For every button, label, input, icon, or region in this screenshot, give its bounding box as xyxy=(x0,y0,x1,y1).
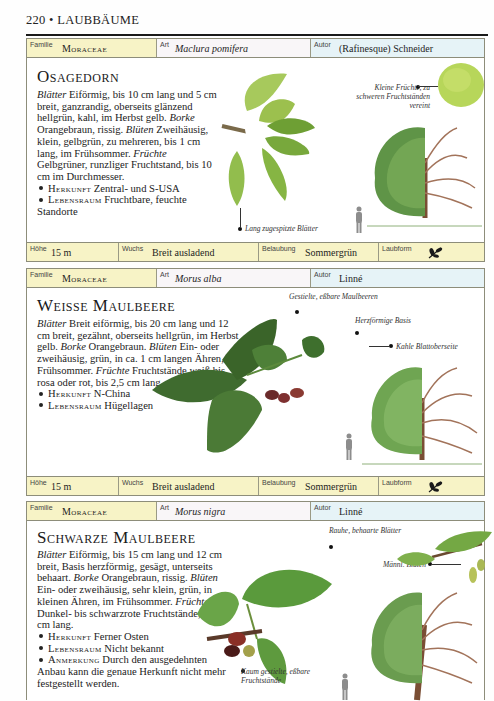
header-rule xyxy=(26,34,488,36)
species-cell: Art Morus alba xyxy=(157,269,311,287)
leaf-form-cell: Laubform xyxy=(379,243,484,261)
entry-header-bar: Familie Moraceae Art Morus alba Autor Li… xyxy=(26,268,485,288)
height-cell: Höhe 15 m xyxy=(27,477,119,495)
entry-schwarze-maulbeere: Familie Moraceae Art Morus nigra Autor L… xyxy=(26,501,485,700)
entry-title: Osagedorn xyxy=(37,67,119,87)
leaf-branch-illustration xyxy=(217,66,317,216)
species-cell: Art Morus nigra xyxy=(157,502,311,520)
foliage-cell: Belaubung Sommergrün xyxy=(259,477,379,495)
separator-dot: • xyxy=(49,13,54,27)
page-header: 220 • LAUBBÄUME xyxy=(26,13,139,28)
species-value: Morus nigra xyxy=(175,506,225,517)
family-label: Familie xyxy=(30,504,53,511)
human-scale-icon xyxy=(340,673,350,701)
leaf-sprig-icon xyxy=(427,480,443,493)
foliage-label: Belaubung xyxy=(262,479,295,486)
author-value: Linné xyxy=(339,273,362,284)
entry-header-bar: Familie Moraceae Art Morus nigra Autor L… xyxy=(26,501,485,521)
caption-fruit: Kaum gestielte, eßbare Fruchtstände xyxy=(241,667,311,685)
page-number: 220 xyxy=(26,13,46,27)
author-value: Linné xyxy=(339,506,362,517)
author-label: Autor xyxy=(314,41,331,48)
tree-illustration xyxy=(367,118,482,233)
entry-footer-bar: Höhe 15 m Wuchs Breit ausladend Belaubun… xyxy=(26,476,485,496)
leader-line xyxy=(369,346,389,347)
human-scale-icon xyxy=(344,433,354,461)
family-label: Familie xyxy=(30,41,53,48)
author-cell: Autor Linné xyxy=(311,269,484,287)
leaf-form-label: Laubform xyxy=(382,245,412,252)
family-label: Familie xyxy=(30,271,53,278)
entry-description: Blätter Eiförmig, bis 10 cm lang und 5 c… xyxy=(37,89,217,218)
tree-illustration xyxy=(362,585,482,700)
entry-footer-bar: Höhe 15 m Wuchs Breit ausladend Belaubun… xyxy=(26,242,485,262)
species-label: Art xyxy=(160,504,169,511)
caption-leaf-surface: Kahle Blattoberseite xyxy=(396,342,481,351)
entry-body: Schwarze Maulbeere Blätter Eiförmig, bis… xyxy=(26,521,485,700)
bullet-habitat: Lebensraum Fruchtbare, feuchte Standorte xyxy=(37,194,217,217)
leaf-sprig-icon xyxy=(427,246,443,259)
leader-line xyxy=(418,86,438,87)
species-label: Art xyxy=(160,271,169,278)
male-flower-branch-illustration xyxy=(397,529,492,589)
entry-body: Osagedorn Blätter Eiförmig, bis 10 cm la… xyxy=(26,58,485,242)
caption-fruit: Gestielte, eßbare Maulbeeren xyxy=(289,292,379,301)
caption-pin xyxy=(389,344,393,348)
caption-leaves: Lang zugespitzte Blätter xyxy=(245,224,325,233)
species-value: Maclura pomifera xyxy=(175,43,248,54)
caption-pin xyxy=(295,310,299,314)
growth-value: Breit ausladend xyxy=(152,481,214,492)
human-scale-icon xyxy=(354,206,364,234)
fruit-illustration xyxy=(437,62,485,108)
species-label: Art xyxy=(160,41,169,48)
family-cell: Familie Moraceae xyxy=(27,502,157,520)
height-label: Höhe xyxy=(30,479,47,486)
height-label: Höhe xyxy=(30,245,47,252)
leaf-form-cell: Laubform xyxy=(379,477,484,495)
author-value: (Rafinesque) Schneider xyxy=(339,43,433,54)
entry-header-bar: Familie Moraceae Art Maclura pomifera Au… xyxy=(26,38,485,58)
tree-illustration xyxy=(362,358,482,470)
caption-pin xyxy=(355,331,359,335)
section-title: LAUBBÄUME xyxy=(57,13,139,27)
entry-body: Weisse Maulbeere Blätter Breit eiförmig,… xyxy=(26,288,485,476)
entry-weisse-maulbeere: Familie Moraceae Art Morus alba Autor Li… xyxy=(26,268,485,496)
foliage-value: Sommergrün xyxy=(305,247,357,258)
leaf-branch-illustration xyxy=(152,310,332,460)
growth-value: Breit ausladend xyxy=(152,247,214,258)
author-cell: Autor Linné xyxy=(311,502,484,520)
caption-base: Herzförmige Basis xyxy=(355,316,415,325)
growth-cell: Wuchs Breit ausladend xyxy=(119,243,259,261)
family-value: Moraceae xyxy=(62,506,107,517)
author-label: Autor xyxy=(314,504,331,511)
entry-osagedorn: Familie Moraceae Art Maclura pomifera Au… xyxy=(26,38,485,263)
foliage-label: Belaubung xyxy=(262,245,295,252)
family-cell: Familie Moraceae xyxy=(27,269,157,287)
species-value: Morus alba xyxy=(175,273,221,284)
growth-cell: Wuchs Breit ausladend xyxy=(119,477,259,495)
bullet-origin: Herkunft Zentral- und S-USA xyxy=(37,183,217,195)
growth-label: Wuchs xyxy=(122,245,143,252)
height-value: 15 m xyxy=(51,481,71,492)
foliage-value: Sommergrün xyxy=(305,481,357,492)
leader-line xyxy=(240,208,241,228)
term: Blätter xyxy=(37,89,66,100)
foliage-cell: Belaubung Sommergrün xyxy=(259,243,379,261)
family-cell: Familie Moraceae xyxy=(27,39,157,57)
species-cell: Art Maclura pomifera xyxy=(157,39,311,57)
growth-label: Wuchs xyxy=(122,479,143,486)
height-cell: Höhe 15 m xyxy=(27,243,119,261)
caption-pin xyxy=(329,545,333,549)
author-label: Autor xyxy=(314,271,331,278)
author-cell: Autor (Rafinesque) Schneider xyxy=(311,39,484,57)
height-value: 15 m xyxy=(51,247,71,258)
entry-title: Schwarze Maulbeere xyxy=(37,528,195,548)
family-value: Moraceae xyxy=(62,273,107,284)
leaf-form-label: Laubform xyxy=(382,479,412,486)
family-value: Moraceae xyxy=(62,43,107,54)
